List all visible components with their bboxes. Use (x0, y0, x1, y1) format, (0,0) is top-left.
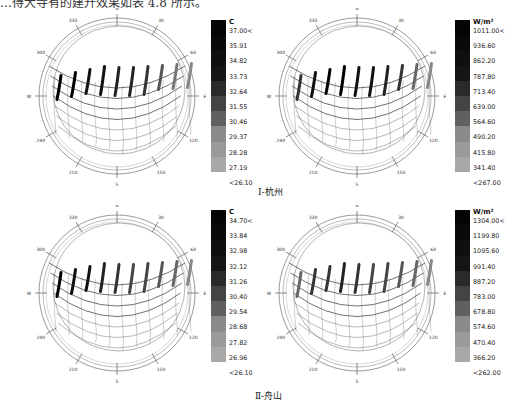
legend-tick: 887.20 (473, 278, 495, 286)
legend-tick: 31.55 (229, 103, 247, 111)
svg-text:120: 120 (429, 335, 438, 340)
legend-tick: 639.00 (473, 103, 495, 111)
sunpath-dial-zhoushan-temp: N3060E120150S210240W300330 (22, 205, 217, 385)
legend-tick: 490.20 (473, 133, 495, 141)
legend-tick: 35.91 (229, 42, 247, 50)
legend-hangzhou-radiation: W/m² 1011.00< 936.60 862.20 787.80 713.4… (455, 20, 512, 182)
svg-text:30: 30 (158, 215, 164, 220)
svg-text:330: 330 (309, 215, 318, 220)
legend-tick: 783.00 (473, 293, 495, 301)
legend-tick: 470.40 (473, 339, 495, 347)
svg-text:S: S (356, 379, 359, 384)
legend-tick: 564.60 (473, 118, 495, 126)
legend-tick: 33.84 (229, 232, 247, 240)
svg-text:E: E (444, 291, 447, 296)
svg-text:60: 60 (430, 50, 436, 55)
legend-tick: 32.12 (229, 263, 247, 271)
svg-text:150: 150 (157, 367, 166, 372)
legend-tick: <267.00 (473, 179, 501, 187)
svg-text:300: 300 (276, 247, 285, 252)
caption-zhoushan: Ⅱ-舟山 (255, 389, 282, 402)
legend-tick: 33.73 (229, 73, 247, 81)
svg-text:150: 150 (157, 170, 166, 175)
legend-unit: C (229, 208, 234, 216)
legend-tick: 34.70< (229, 217, 253, 225)
sunpath-dial-hangzhou-radiation: N3060E120150S210240W300330 (262, 8, 457, 188)
color-scale-bar (211, 210, 226, 362)
legend-tick: 936.60 (473, 42, 495, 50)
legend-zhoushan-radiation: W/m² 1304.00< 1199.80 1095.60 991.40 887… (455, 210, 512, 372)
svg-text:150: 150 (397, 170, 406, 175)
legend-tick: 28.68 (229, 323, 247, 331)
legend-tick: <26.10 (229, 369, 253, 377)
color-scale-bar (455, 20, 470, 172)
svg-text:210: 210 (309, 367, 318, 372)
svg-text:W: W (27, 291, 32, 296)
svg-text:300: 300 (36, 247, 45, 252)
legend-tick: 29.54 (229, 308, 247, 316)
svg-text:60: 60 (190, 247, 196, 252)
legend-tick: 31.26 (229, 278, 247, 286)
svg-text:30: 30 (158, 18, 164, 23)
svg-text:120: 120 (429, 138, 438, 143)
legend-hangzhou-temp: C 37.00< 35.91 34.82 33.73 32.64 31.55 3… (211, 20, 271, 182)
legend-tick: 1304.00< (473, 217, 505, 225)
legend-tick: <262.00 (473, 369, 501, 377)
svg-text:N: N (115, 8, 118, 11)
color-scale-bar (455, 210, 470, 362)
svg-text:300: 300 (36, 50, 45, 55)
svg-text:210: 210 (69, 170, 78, 175)
legend-tick: 366.20 (473, 354, 495, 362)
legend-tick: 862.20 (473, 57, 495, 65)
color-scale-bar (211, 20, 226, 172)
svg-text:150: 150 (397, 367, 406, 372)
svg-text:240: 240 (276, 138, 285, 143)
legend-tick: 678.80 (473, 308, 495, 316)
legend-tick: 1095.60 (473, 247, 499, 255)
svg-text:S: S (116, 182, 119, 187)
legend-tick: 37.00< (229, 27, 253, 35)
sunpath-dial-hangzhou-temp: N3060E120150S210240W300330 (22, 8, 217, 188)
svg-text:N: N (355, 205, 358, 208)
svg-text:240: 240 (276, 335, 285, 340)
svg-text:330: 330 (69, 215, 78, 220)
svg-text:N: N (115, 205, 118, 208)
legend-tick: 574.60 (473, 323, 495, 331)
legend-unit: C (229, 18, 234, 26)
legend-tick: 27.19 (229, 164, 247, 172)
svg-text:210: 210 (309, 170, 318, 175)
legend-tick: 787.80 (473, 73, 495, 81)
sunpath-dial-zhoushan-radiation: N3060E120150S210240W300330 (262, 205, 457, 385)
legend-tick: 30.46 (229, 118, 247, 126)
svg-text:60: 60 (190, 50, 196, 55)
svg-text:300: 300 (276, 50, 285, 55)
svg-text:210: 210 (69, 367, 78, 372)
legend-tick: 32.98 (229, 247, 247, 255)
svg-text:120: 120 (189, 335, 198, 340)
legend-tick: 991.40 (473, 263, 495, 271)
legend-tick: 34.82 (229, 57, 247, 65)
svg-text:330: 330 (309, 18, 318, 23)
svg-text:120: 120 (189, 138, 198, 143)
svg-text:S: S (116, 379, 119, 384)
legend-tick: 341.40 (473, 164, 495, 172)
svg-text:N: N (355, 8, 358, 11)
legend-tick: 1199.80 (473, 232, 499, 240)
legend-tick: 1011.00< (473, 27, 505, 35)
legend-zhoushan-temp: C 34.70< 33.84 32.98 32.12 31.26 30.40 2… (211, 210, 271, 372)
legend-tick: 27.82 (229, 339, 247, 347)
svg-text:30: 30 (398, 215, 404, 220)
legend-tick: <26.10 (229, 179, 253, 187)
legend-tick: 30.40 (229, 293, 247, 301)
legend-tick: 26.96 (229, 354, 247, 362)
svg-text:E: E (204, 291, 207, 296)
svg-text:30: 30 (398, 18, 404, 23)
svg-text:E: E (444, 94, 447, 99)
caption-hangzhou: Ⅰ-杭州 (258, 185, 283, 198)
legend-tick: 28.28 (229, 149, 247, 157)
legend-tick: 32.64 (229, 88, 247, 96)
legend-unit: W/m² (473, 18, 494, 26)
legend-unit: W/m² (473, 208, 494, 216)
svg-text:W: W (27, 94, 32, 99)
svg-text:E: E (204, 94, 207, 99)
